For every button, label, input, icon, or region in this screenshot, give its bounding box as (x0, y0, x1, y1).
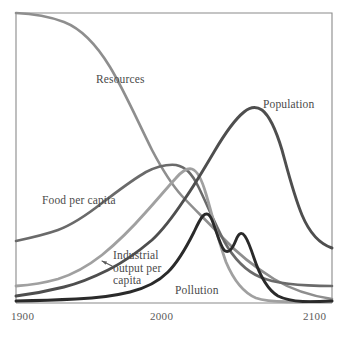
series-line-food-per-capita (16, 165, 332, 286)
industrial-output-arrow-icon (102, 261, 112, 266)
x-axis-tick-2100: 2100 (303, 310, 326, 322)
series-label-industrial-line-1: Industrial (113, 249, 161, 262)
series-label-population: Population (263, 98, 314, 111)
series-label-food-per-capita: Food per capita (42, 194, 116, 207)
series-label-pollution: Pollution (175, 284, 219, 297)
series-label-resources: Resources (96, 73, 145, 86)
series-label-industrial-line-3: capita (113, 274, 161, 287)
series-label-industrial-line-2: output per (113, 262, 161, 275)
world3-chart: Resources Population Food per capita Ind… (0, 0, 345, 343)
x-axis-tick-2000: 2000 (150, 310, 173, 322)
chart-plot-area (0, 0, 345, 343)
series-label-industrial-output: Industrial output per capita (113, 249, 161, 287)
x-axis-tick-1900: 1900 (11, 310, 34, 322)
series-line-industrial-output (16, 169, 332, 302)
